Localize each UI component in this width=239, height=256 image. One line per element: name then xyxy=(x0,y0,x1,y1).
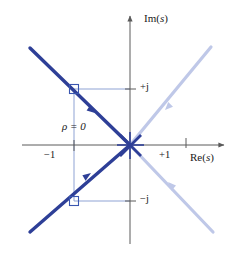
double-pole-origin xyxy=(117,132,144,159)
root-locus-branch-upper-right xyxy=(130,47,211,145)
imaginary-axis-variable: s xyxy=(160,12,164,24)
real-axis-label: Re(s) xyxy=(190,152,214,163)
figure-canvas: Im(s) Re(s) +j −j −1 +1 ρ = 0 xyxy=(0,0,239,256)
imaginary-axis-label-text: Im xyxy=(144,12,156,24)
real-axis-label-text: Re xyxy=(190,151,202,163)
root-locus-diagram xyxy=(0,0,239,256)
real-axis-variable: s xyxy=(206,151,210,163)
tick-label-plus-j: +j xyxy=(140,82,149,93)
tick-label-plus-one: +1 xyxy=(159,150,170,161)
tick-label-minus-one: −1 xyxy=(44,150,55,161)
rho-zero-annotation: ρ = 0 xyxy=(62,121,86,132)
locus-branches-light xyxy=(120,47,213,232)
imaginary-axis-label: Im(s) xyxy=(144,13,168,24)
tick-label-minus-j: −j xyxy=(140,194,149,205)
locus-branches-dark xyxy=(30,48,130,232)
